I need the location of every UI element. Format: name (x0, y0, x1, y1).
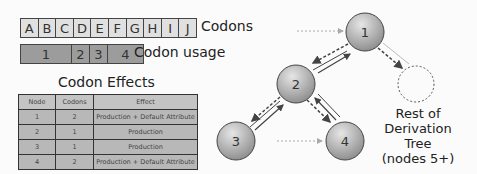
rest-label-line: (nodes 5+) (378, 151, 458, 166)
svg-text:1: 1 (361, 25, 369, 40)
tree-node-1: 1 (346, 13, 384, 51)
svg-text:4: 4 (341, 134, 349, 149)
tree-node-2: 2 (277, 65, 315, 103)
rest-of-tree-label: Rest of Derivation Tree (nodes 5+) (378, 106, 458, 166)
svg-text:3: 3 (232, 134, 240, 149)
tree-node-4: 4 (326, 122, 364, 160)
rest-of-tree-node (398, 66, 434, 102)
rest-label-line: Derivation Tree (378, 121, 458, 151)
svg-text:2: 2 (292, 77, 300, 92)
rest-label-line: Rest of (378, 106, 458, 121)
tree-node-3: 3 (217, 122, 255, 160)
